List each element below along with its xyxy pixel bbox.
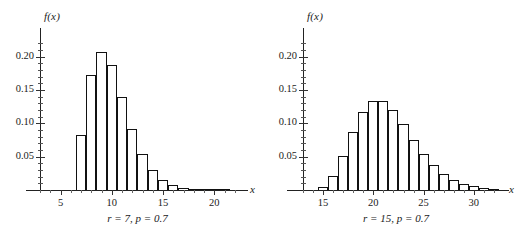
histogram-bar [429, 165, 439, 190]
histogram-bar [318, 187, 328, 190]
histogram-bar [158, 180, 168, 190]
histogram-bar [107, 65, 117, 190]
histogram-bars [257, 0, 515, 243]
histogram-bar [368, 101, 378, 190]
histogram-bar [449, 180, 459, 190]
histogram-bar [219, 189, 229, 190]
negative-binomial-figure: f(x) x 0.050.100.150.20 5101520 r = 7, p… [0, 0, 515, 243]
histogram-bar [199, 189, 209, 190]
histogram-bar [439, 174, 449, 190]
histogram-bar [398, 124, 408, 190]
histogram-bar [489, 189, 499, 190]
histogram-bar [358, 112, 368, 190]
histogram-bars [0, 0, 257, 243]
histogram-bar [127, 129, 137, 190]
histogram-bar [419, 154, 429, 190]
histogram-bar [378, 101, 388, 190]
histogram-bar [178, 188, 188, 190]
histogram-bar [328, 176, 338, 190]
histogram-bar [86, 75, 96, 190]
histogram-bar [338, 156, 348, 190]
histogram-bar [348, 132, 358, 190]
histogram-bar [168, 185, 178, 190]
histogram-bar [459, 184, 469, 190]
histogram-bar [76, 135, 86, 190]
histogram-bar [409, 140, 419, 190]
panel-caption: r = 15, p = 0.7 [257, 212, 515, 224]
histogram-bar [148, 170, 158, 190]
histogram-bar [469, 186, 479, 190]
chart-panel-r7: f(x) x 0.050.100.150.20 5101520 r = 7, p… [0, 0, 257, 243]
histogram-bar [117, 97, 127, 190]
histogram-bar [209, 189, 219, 190]
histogram-bar [189, 189, 199, 190]
chart-panel-r15: f(x) x 0.050.100.150.20 15202530 r = 15,… [257, 0, 515, 243]
histogram-bar [479, 188, 489, 190]
panel-caption: r = 7, p = 0.7 [0, 212, 257, 224]
histogram-bar [137, 154, 147, 190]
histogram-bar [96, 52, 106, 190]
histogram-bar [388, 110, 398, 190]
